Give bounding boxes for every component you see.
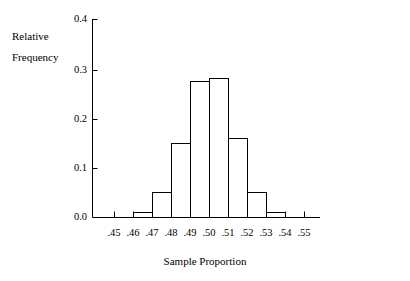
histogram-figure: Relative Frequency 0.4 0.3 0.2 0.1 0.0 .… [0,0,410,281]
bar-50-51 [210,79,229,218]
bar-48-49 [172,143,191,217]
histogram-bars [134,79,286,218]
bar-51-52 [229,138,248,217]
bar-53-54 [267,213,286,218]
bar-47-48 [153,193,172,218]
bar-52-53 [248,193,267,218]
histogram-plot [0,0,410,281]
bar-49-50 [191,81,210,217]
y-tick-marks [93,20,98,169]
bar-46-47 [134,213,153,218]
